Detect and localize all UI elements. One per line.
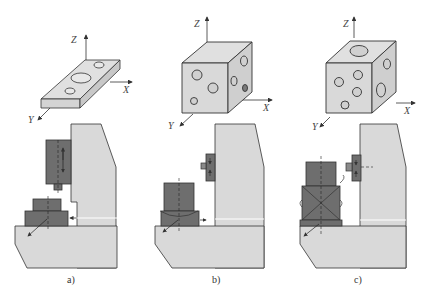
z-axis-label: Z: [71, 34, 77, 45]
hole-icon: [231, 77, 237, 86]
spindle-head: [201, 154, 215, 181]
y-axis-label: Y: [168, 120, 175, 131]
hole-icon: [341, 101, 349, 109]
hole-icon: [350, 46, 368, 57]
y-axis-arrow-icon: [180, 114, 193, 126]
diagram-canvas: Z X Y: [0, 0, 429, 296]
worktable: [300, 156, 344, 236]
hole-icon: [65, 88, 75, 94]
x-axis-label: X: [403, 105, 411, 116]
hole-icon: [71, 73, 91, 83]
y-axis-label: Y: [28, 114, 35, 125]
cube-workpiece: [182, 42, 252, 113]
panel-c: Z X Y: [300, 17, 415, 286]
panel-a: Z X Y: [15, 34, 132, 286]
hole-icon: [353, 88, 362, 97]
hole-icon: [377, 83, 386, 97]
z-axis-label: Z: [343, 18, 349, 29]
machine-base: [300, 220, 406, 268]
y-axis-label: Y: [312, 121, 319, 132]
hole-icon: [354, 71, 363, 80]
rotation-arrow-icon: [340, 175, 344, 183]
caption-a: a): [67, 274, 75, 286]
hole-icon: [94, 62, 104, 68]
y-axis-arrow-icon: [320, 117, 330, 127]
caption-c: c): [354, 274, 362, 286]
panel-b: Z X Y: [155, 17, 272, 286]
plate-workpiece: [41, 60, 120, 108]
hole-icon: [241, 56, 248, 66]
x-axis-label: X: [262, 102, 270, 113]
hole-icon: [384, 59, 391, 69]
caption-b: b): [212, 274, 220, 286]
hole-icon: [192, 70, 202, 80]
hole-icon: [335, 78, 344, 87]
z-axis-label: Z: [194, 18, 200, 29]
y-axis-arrow-icon: [38, 108, 50, 120]
hole-icon: [243, 85, 248, 92]
hole-icon: [208, 83, 218, 93]
hole-icon: [191, 98, 198, 105]
worktable: [160, 178, 206, 232]
x-axis-label: X: [122, 84, 130, 95]
spindle-head: [46, 140, 71, 195]
cube-workpiece: [326, 41, 396, 113]
